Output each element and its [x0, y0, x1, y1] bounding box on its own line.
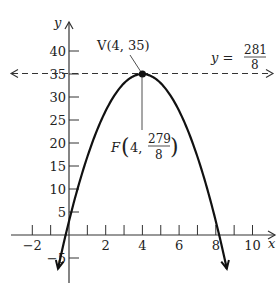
focus-label-prefix: F	[110, 140, 121, 155]
focus-numerator: 279	[148, 132, 171, 146]
y-tick-label: 10	[49, 182, 66, 197]
y-axis-label: y	[53, 15, 62, 30]
directrix-denominator: 8	[251, 58, 259, 72]
vertex-pointer-line	[130, 55, 141, 72]
y-tick-label: 20	[49, 136, 66, 151]
focus-open-paren: (	[121, 134, 130, 159]
focus-close-paren: )	[170, 134, 179, 159]
x-tick-label: 10	[244, 238, 261, 253]
y-tick-label: 40	[49, 44, 66, 59]
x-tick-label: 4	[138, 238, 146, 253]
parabola-chart: −2246810−5510152025303540 y x V(4, 35) F…	[0, 0, 277, 289]
x-tick-label: 6	[175, 238, 183, 253]
y-tick-label: 5	[58, 205, 66, 220]
focus-label-x: 4,	[130, 140, 142, 155]
y-tick-label: 15	[49, 159, 66, 174]
y-tick-label: 25	[49, 113, 66, 128]
x-tick-label: 8	[212, 238, 220, 253]
vertex-label: V(4, 35)	[96, 38, 150, 53]
directrix-numerator: 281	[244, 43, 267, 57]
y-tick-label: 35	[49, 67, 66, 82]
directrix-label-prefix: y =	[210, 50, 233, 65]
annotations: y x V(4, 35) F ( 4, 279 8 ) y = 281 8	[53, 15, 276, 251]
focus-denominator: 8	[155, 148, 163, 162]
x-axis-label: x	[268, 236, 276, 251]
y-tick-label: 30	[49, 90, 66, 105]
x-tick-label: −2	[23, 238, 42, 253]
x-tick-label: 2	[102, 238, 110, 253]
